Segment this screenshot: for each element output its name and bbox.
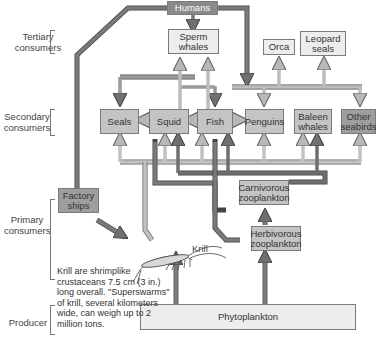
krill-note: Krill are shrimplike crustaceans 7.5 cm … [57,266,177,329]
bracket-tertiary [50,30,55,54]
level-label-secondary: Secondary consumers [2,111,52,133]
node-herbivorous-zooplankton: Herbivorous zooplankton [251,226,301,251]
bracket-primary [50,199,55,280]
node-baleen-whales: Baleen whales [294,109,332,134]
level-label-primary: Primary consumers [4,214,50,236]
bracket-producer [50,305,55,335]
bracket-secondary [50,109,55,136]
level-label-producer: Producer [6,317,50,328]
node-factory-ships: Factory ships [58,188,99,213]
node-krill: Krill [192,243,208,254]
node-orca: Orca [263,39,295,55]
node-fish: Fish [197,109,233,134]
node-leopard-seals: Leopard seals [300,31,346,56]
node-squid: Squid [149,109,189,134]
node-carnivorous-zooplankton: Carnivorous zooplankton [239,180,289,205]
node-humans: Humans [167,1,218,15]
node-sperm-whales: Sperm whales [168,29,219,54]
node-seals: Seals [100,109,139,134]
node-penguins: Penguins [245,109,284,134]
node-other-seabirds: Other seabirds [341,109,376,134]
